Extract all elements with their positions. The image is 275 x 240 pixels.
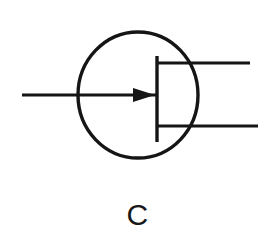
input-lead-arrowhead-icon <box>133 88 155 102</box>
figure-root: C <box>0 0 275 240</box>
figure-caption-label: C <box>0 199 275 231</box>
